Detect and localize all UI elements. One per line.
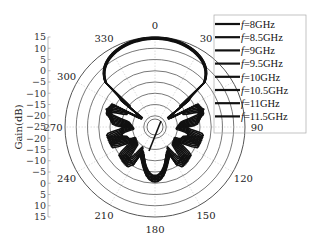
polar-gain-chart: 03090120150180210240270300330 151050−5−1… [0, 0, 309, 234]
radial-tick-label: −15 [26, 99, 46, 110]
radial-tick-label: −5 [32, 166, 46, 177]
angle-tick-label: 30 [200, 33, 213, 44]
angle-tick-label: 240 [57, 173, 76, 184]
legend: f=8GHzf=8.5GHzf=9GHzf=9.5GHzf=10GHzf=10.… [214, 15, 306, 133]
radial-tick-label: 10 [34, 43, 46, 54]
radial-tick-label: −15 [26, 144, 46, 155]
radial-tick-label: 15 [34, 31, 46, 42]
radial-tick-label: −5 [32, 76, 46, 87]
legend-entry: f=8GHz [241, 19, 275, 30]
angle-tick-label: 300 [57, 71, 76, 82]
legend-entry: f=9.5GHz [241, 58, 283, 69]
angle-tick-label: 210 [94, 210, 113, 221]
legend-entry: f=10.5GHz [241, 85, 288, 96]
radial-tick-label: −20 [26, 133, 46, 144]
legend-entry: f=9GHz [241, 45, 275, 56]
radial-tick-label: 5 [40, 189, 46, 200]
radial-tick-label: −20 [26, 110, 46, 121]
radial-tick-label: 10 [34, 200, 46, 211]
legend-entry: f=10GHz [241, 72, 281, 83]
radial-tick-label: 0 [40, 65, 46, 76]
legend-entry: f=11GHz [241, 98, 280, 109]
angle-tick-label: 180 [145, 224, 164, 235]
radial-tick-label: 5 [40, 54, 46, 65]
radial-tick-label: 0 [40, 178, 46, 189]
radial-tick-label: −10 [26, 155, 46, 166]
angle-tick-label: 120 [234, 173, 253, 184]
radial-tick-label: −25 [26, 121, 46, 132]
y-axis-label: Gain(dB) [13, 104, 24, 149]
angle-tick-label: 0 [152, 20, 158, 31]
angle-tick-label: 270 [43, 122, 62, 133]
legend-entry: f=11.5GHz [241, 111, 288, 122]
radial-tick-label: 15 [34, 211, 46, 222]
angle-tick-label: 330 [94, 33, 113, 44]
angle-tick-label: 150 [196, 210, 215, 221]
radial-tick-label: −10 [26, 88, 46, 99]
legend-entry: f=8.5GHz [241, 32, 283, 43]
